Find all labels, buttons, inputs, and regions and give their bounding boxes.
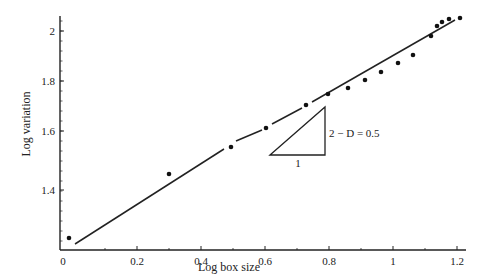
x-tick-label: 1.2 xyxy=(450,255,464,267)
data-point xyxy=(346,86,351,91)
data-point xyxy=(379,70,384,75)
y-tick-label: 1.8 xyxy=(41,75,55,87)
data-point xyxy=(411,53,416,58)
y-tick-label: 1.4 xyxy=(41,184,55,196)
slope-triangle-shape xyxy=(270,107,325,155)
data-point xyxy=(429,34,434,39)
x-tick-label: 0.6 xyxy=(258,255,272,267)
data-point xyxy=(326,92,331,97)
x-axis-label: Log box size xyxy=(198,260,260,274)
data-point xyxy=(229,145,234,150)
y-axis-label: Log variation xyxy=(19,92,33,157)
data-point xyxy=(396,61,401,66)
axes: 00.20.40.60.811.21.41.61.82 xyxy=(41,16,466,267)
data-point xyxy=(440,20,445,25)
data-point xyxy=(67,236,72,241)
data-point xyxy=(304,103,309,108)
log-variation-chart: 00.20.40.60.811.21.41.61.82 1 2 − D = 0.… xyxy=(0,0,488,276)
data-point xyxy=(458,16,463,21)
x-tick-label: 0.2 xyxy=(130,255,144,267)
run-label: 1 xyxy=(295,157,301,169)
x-tick-label: 0 xyxy=(60,255,66,267)
x-tick-label: 0.8 xyxy=(322,255,336,267)
data-point xyxy=(363,78,368,83)
y-tick-label: 2 xyxy=(50,25,56,37)
rise-label: 2 − D = 0.5 xyxy=(329,127,380,139)
data-point xyxy=(435,24,440,29)
data-point xyxy=(447,17,452,22)
y-tick-label: 1.6 xyxy=(41,125,55,137)
data-point xyxy=(167,172,172,177)
fit-line xyxy=(75,20,455,244)
x-tick-label: 1 xyxy=(390,255,396,267)
data-point xyxy=(264,126,269,131)
